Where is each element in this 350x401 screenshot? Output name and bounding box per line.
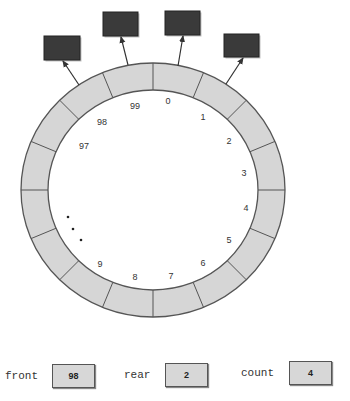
count-label: count	[241, 367, 274, 379]
index-labels: 0123456789979899	[79, 96, 249, 282]
index-label: 2	[226, 136, 231, 146]
element-box	[103, 12, 138, 36]
count-value: 4	[308, 368, 313, 378]
index-label: 6	[200, 258, 205, 268]
pointer-arrow-icon	[63, 61, 79, 85]
element-at-99	[103, 12, 140, 65]
index-label: 3	[241, 168, 246, 178]
index-label: 97	[79, 141, 89, 151]
segment-dividers	[21, 63, 285, 317]
index-label: 4	[243, 203, 248, 213]
front-label: front	[5, 370, 38, 382]
index-label: 7	[168, 271, 173, 281]
index-label: 99	[130, 101, 140, 111]
ellipsis-dots	[67, 216, 83, 242]
index-label: 8	[132, 272, 137, 282]
ellipsis-dot	[67, 216, 70, 219]
rear-value: 2	[184, 370, 189, 380]
element-box	[44, 36, 80, 60]
front-value: 98	[68, 371, 78, 381]
rear-value-box: 2	[165, 363, 208, 387]
index-label: 9	[97, 259, 102, 269]
circular-queue-diagram: 0123456789979899	[0, 0, 350, 401]
element-at-1	[224, 34, 261, 84]
ellipsis-dot	[72, 228, 75, 231]
element-at-98	[44, 36, 82, 85]
element-at-0	[165, 11, 202, 66]
element-box	[224, 34, 259, 57]
element-box	[165, 11, 200, 35]
index-label: 0	[165, 96, 170, 106]
pointer-arrow-icon	[226, 58, 243, 84]
index-label: 5	[226, 235, 231, 245]
rear-label: rear	[124, 369, 150, 381]
index-label: 98	[97, 117, 107, 127]
pointer-arrow-icon	[121, 37, 128, 65]
ellipsis-dot	[80, 239, 83, 242]
pointer-arrow-icon	[178, 36, 183, 66]
index-label: 1	[200, 112, 205, 122]
front-value-box: 98	[52, 364, 95, 388]
count-value-box: 4	[289, 361, 332, 385]
